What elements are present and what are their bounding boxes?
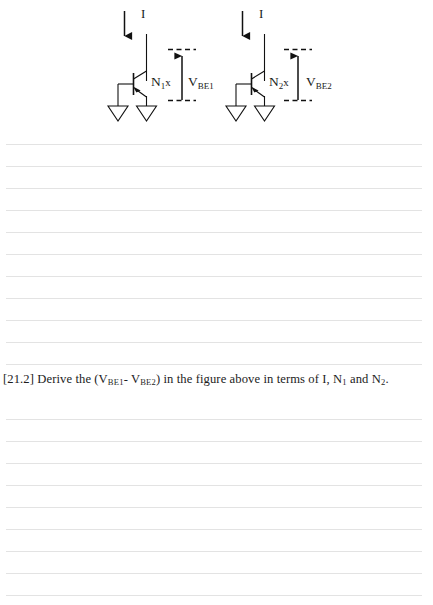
rule-line [6, 342, 422, 343]
rule-line [6, 419, 422, 420]
question-sub-2: BE2 [140, 377, 156, 387]
rule-line [6, 463, 422, 464]
rule-line [6, 232, 422, 233]
ground-symbol-right-2 [255, 106, 275, 121]
question-body-1: Derive the (V [37, 372, 108, 386]
ground-symbol-left-2 [137, 106, 157, 121]
vbe-label-left: VBE1 [188, 74, 214, 91]
rule-line [6, 188, 422, 189]
ground-symbol-right-1 [226, 106, 246, 121]
device-label-right: N2x [269, 74, 289, 91]
rule-line [6, 551, 422, 552]
collector-lead-left [134, 71, 147, 79]
ground-symbol-left-1 [108, 106, 128, 121]
question-body-5: . [385, 372, 388, 386]
question-body-3: ) in the figure above in terms of I, N [156, 372, 342, 386]
device-label-left: N1x [151, 74, 171, 91]
rule-line [6, 254, 422, 255]
circuit-figure: I N1x VBE1 I N2x VBE2 [0, 0, 433, 126]
vbe-label-right: VBE2 [306, 74, 332, 91]
question-body-2: - V [124, 372, 141, 386]
circuit-right [226, 11, 312, 121]
rule-line [6, 210, 422, 211]
rule-line [6, 144, 422, 145]
rule-line [6, 595, 422, 596]
rule-line [6, 529, 422, 530]
current-label-left: I [141, 6, 145, 21]
rule-line [6, 166, 422, 167]
rule-line [6, 507, 422, 508]
question-sub-1: BE1 [108, 377, 124, 387]
rule-line [6, 364, 422, 365]
rule-line [6, 573, 422, 574]
question-number: [21.2] [3, 372, 34, 386]
rule-line [6, 276, 422, 277]
current-label-right: I [259, 6, 263, 21]
rule-line [6, 320, 422, 321]
circuit-left [108, 11, 196, 121]
worksheet-page: I N1x VBE1 I N2x VBE2 [0, 0, 433, 605]
rule-line [6, 441, 422, 442]
question-text: [21.2] Derive the (VBE1- VBE2) in the fi… [3, 371, 431, 391]
rule-line [6, 298, 422, 299]
question-body-4: and N [347, 372, 381, 386]
collector-lead-right [252, 71, 265, 79]
rule-line [6, 485, 422, 486]
